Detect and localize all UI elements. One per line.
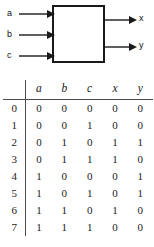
- cell-c: 1: [77, 117, 102, 134]
- cell-b: 1: [52, 219, 77, 236]
- table-row: 0 0 0 0 0 0: [3, 100, 153, 118]
- cell-a: 1: [26, 185, 52, 202]
- input-label-c: c: [7, 51, 12, 60]
- column-header-y: y: [128, 80, 153, 100]
- truth-table-container: a b c x y 0 0 0 0 0 0 1 0 0 1 0 0: [0, 80, 154, 247]
- row-index: 2: [3, 134, 26, 151]
- truth-table-header: a b c x y: [3, 80, 153, 100]
- column-header-b: b: [52, 80, 77, 100]
- row-index: 0: [3, 100, 26, 118]
- cell-y: 0: [128, 202, 153, 219]
- cell-x: 0: [102, 100, 127, 118]
- arrowhead-output-y-icon: [129, 43, 137, 51]
- cell-b: 0: [52, 117, 77, 134]
- cell-b: 1: [52, 134, 77, 151]
- cell-x: 0: [102, 117, 127, 134]
- column-header-index: [3, 80, 26, 100]
- cell-y: 0: [128, 100, 153, 118]
- cell-b: 1: [52, 202, 77, 219]
- cell-x: 1: [102, 134, 127, 151]
- cell-y: 1: [128, 168, 153, 185]
- cell-c: 0: [77, 134, 102, 151]
- table-row: 3 0 1 1 1 0: [3, 151, 153, 168]
- cell-x: 0: [102, 168, 127, 185]
- column-header-a: a: [26, 80, 52, 100]
- cell-a: 1: [26, 168, 52, 185]
- cell-y: 0: [128, 151, 153, 168]
- output-label-y: y: [139, 41, 144, 50]
- truth-table: a b c x y 0 0 0 0 0 0 1 0 0 1 0 0: [3, 80, 153, 236]
- cell-x: 0: [102, 185, 127, 202]
- cell-c: 1: [77, 151, 102, 168]
- table-row: 6 1 1 0 1 0: [3, 202, 153, 219]
- cell-a: 0: [26, 134, 52, 151]
- arrowhead-output-x-icon: [129, 16, 137, 24]
- cell-a: 0: [26, 100, 52, 118]
- cell-a: 1: [26, 202, 52, 219]
- block-diagram: a b c x y: [0, 0, 154, 75]
- row-index: 6: [3, 202, 26, 219]
- column-header-x: x: [102, 80, 127, 100]
- cell-c: 1: [77, 219, 102, 236]
- row-index: 1: [3, 117, 26, 134]
- truth-table-header-row: a b c x y: [3, 80, 153, 100]
- row-index: 5: [3, 185, 26, 202]
- table-row: 7 1 1 1 0 0: [3, 219, 153, 236]
- block-diagram-svg: [0, 0, 154, 75]
- cell-x: 1: [102, 151, 127, 168]
- table-row: 2 0 1 0 1 1: [3, 134, 153, 151]
- table-row: 5 1 0 1 0 1: [3, 185, 153, 202]
- cell-c: 0: [77, 100, 102, 118]
- cell-y: 0: [128, 117, 153, 134]
- cell-a: 0: [26, 151, 52, 168]
- row-index: 7: [3, 219, 26, 236]
- input-label-b: b: [7, 30, 12, 39]
- truth-table-body: 0 0 0 0 0 0 1 0 0 1 0 0 2 0 1 0 1 1: [3, 100, 153, 237]
- cell-y: 1: [128, 134, 153, 151]
- row-index: 3: [3, 151, 26, 168]
- logic-box: [53, 6, 104, 62]
- table-row: 1 0 0 1 0 0: [3, 117, 153, 134]
- cell-x: 0: [102, 219, 127, 236]
- cell-a: 1: [26, 219, 52, 236]
- column-header-c: c: [77, 80, 102, 100]
- cell-b: 0: [52, 168, 77, 185]
- cell-b: 1: [52, 151, 77, 168]
- cell-c: 1: [77, 185, 102, 202]
- cell-b: 0: [52, 185, 77, 202]
- cell-y: 1: [128, 185, 153, 202]
- cell-c: 0: [77, 168, 102, 185]
- cell-c: 0: [77, 202, 102, 219]
- cell-y: 0: [128, 219, 153, 236]
- table-row: 4 1 0 0 0 1: [3, 168, 153, 185]
- cell-a: 0: [26, 117, 52, 134]
- cell-x: 1: [102, 202, 127, 219]
- output-label-x: x: [139, 14, 144, 23]
- cell-b: 0: [52, 100, 77, 118]
- row-index: 4: [3, 168, 26, 185]
- input-label-a: a: [7, 9, 12, 18]
